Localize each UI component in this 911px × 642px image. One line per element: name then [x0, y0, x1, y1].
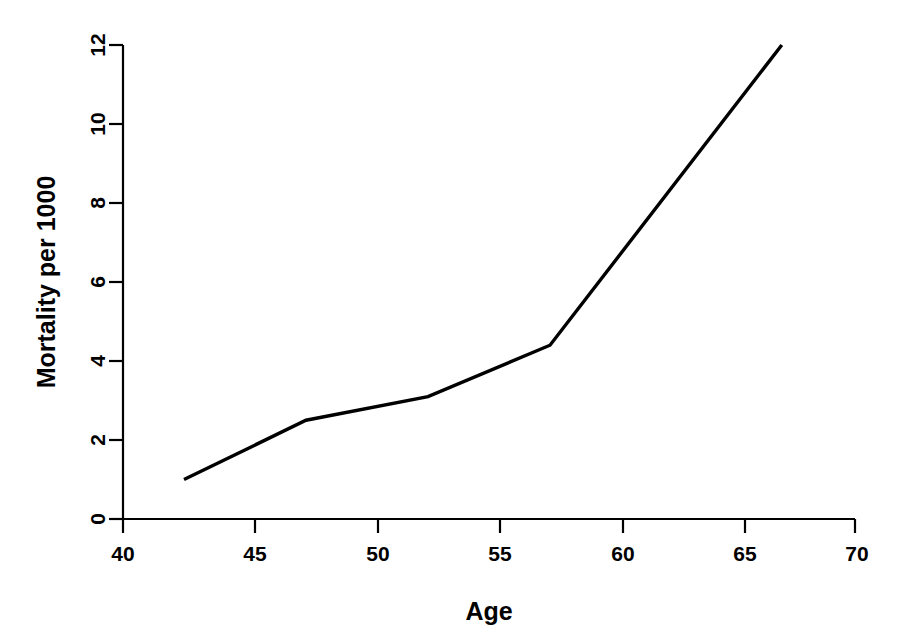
x-tick-label-40: 40 — [111, 542, 134, 565]
mortality-vs-age-line-chart: 0 2 4 6 8 10 12 40 45 50 55 60 65 70 — [0, 0, 911, 642]
y-tick-label-10: 10 — [86, 112, 109, 135]
plot-background — [0, 0, 911, 642]
chart-figure: 0 2 4 6 8 10 12 40 45 50 55 60 65 70 — [0, 0, 911, 642]
x-tick-label-50: 50 — [366, 542, 389, 565]
y-tick-label-12: 12 — [86, 33, 109, 56]
x-tick-label-70: 70 — [845, 542, 868, 565]
y-tick-label-6: 6 — [86, 276, 109, 288]
x-axis-title: Age — [465, 597, 512, 625]
x-tick-label-45: 45 — [243, 542, 267, 565]
y-axis-title: Mortality per 1000 — [32, 176, 60, 389]
y-tick-label-2: 2 — [86, 434, 109, 446]
y-tick-label-4: 4 — [86, 355, 109, 367]
x-tick-label-60: 60 — [611, 542, 634, 565]
x-tick-label-65: 65 — [733, 542, 757, 565]
y-tick-label-8: 8 — [86, 197, 109, 209]
x-tick-label-55: 55 — [488, 542, 512, 565]
y-tick-label-0: 0 — [86, 513, 109, 525]
